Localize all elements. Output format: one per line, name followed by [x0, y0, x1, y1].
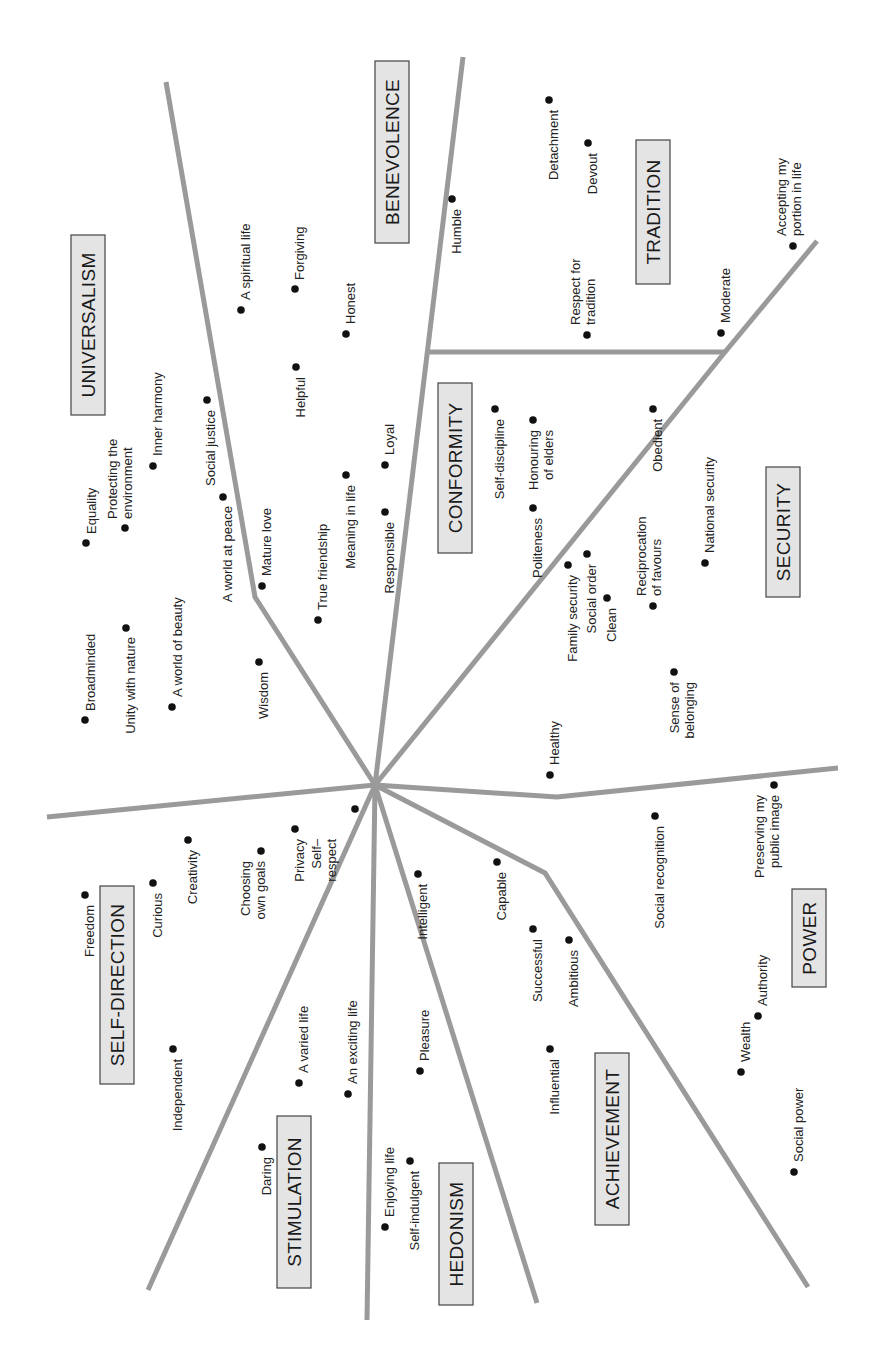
bullet-dot-icon [491, 405, 499, 413]
group-label: SECURITY [773, 483, 794, 581]
value-label: Self-discipline [492, 419, 507, 499]
group-achievement: ACHIEVEMENT [595, 1053, 629, 1225]
value-item-broadminded: Broadminded [81, 634, 98, 724]
value-item-preserving-my-public-image: Preserving mypublic image [752, 781, 782, 878]
value-label: Choosingown goals [238, 861, 268, 920]
bullet-dot-icon [529, 416, 537, 424]
value-item-mature-love: Mature love [258, 508, 274, 590]
value-item-social-order: Social order [583, 550, 599, 633]
value-label: Humble [449, 209, 464, 254]
value-label: Creativity [185, 850, 200, 905]
value-item-respect-for-tradition: Respect fortradition [568, 258, 598, 339]
bullet-dot-icon [295, 1079, 303, 1087]
value-item-influential: Influential [546, 1045, 562, 1114]
value-item-an-exciting-life: An exciting life [344, 1000, 360, 1098]
group-self-direction: SELF-DIRECTION [100, 886, 134, 1084]
bullet-dot-icon [257, 847, 265, 855]
value-item-a-varied-life: A varied life [295, 1006, 311, 1087]
bullet-dot-icon [168, 703, 176, 711]
value-item-creativity: Creativity [184, 836, 200, 904]
value-item-self-indulgent: Self-indulgent [406, 1157, 422, 1250]
value-label: Privacy [292, 839, 307, 882]
value-label: Sense ofbelonging [667, 682, 697, 739]
divider-universalism-self-direction [47, 785, 375, 817]
bullet-dot-icon [790, 1168, 798, 1176]
value-item-responsible: Responsible [381, 508, 397, 593]
value-item-honest: Honest [342, 282, 358, 337]
bullet-dot-icon [529, 504, 537, 512]
value-label: Inner harmony [150, 372, 165, 456]
value-label: Reciprocationof favours [634, 517, 664, 597]
value-item-curious: Curious [149, 879, 165, 938]
bullet-dot-icon [583, 331, 591, 339]
value-label: Unity with nature [123, 637, 138, 734]
bullet-dot-icon [258, 1143, 266, 1151]
value-label: Wisdom [256, 672, 271, 719]
value-item-true-friendship: True friendship [314, 524, 330, 624]
value-label: Curious [150, 893, 165, 938]
group-label: SELF-DIRECTION [107, 904, 128, 1067]
bullet-dot-icon [258, 582, 266, 590]
divider-self-direction-stimulation [148, 785, 375, 1290]
bullet-dot-icon [342, 471, 350, 479]
value-item-loyal: Loyal [381, 424, 397, 469]
value-item-enjoying-life: Enjoying life [381, 1147, 397, 1231]
bullet-dot-icon [754, 1012, 762, 1020]
value-label: Mature love [259, 508, 274, 576]
bullet-dot-icon [737, 1068, 745, 1076]
value-label: Authority [755, 954, 770, 1006]
bullet-dot-icon [203, 396, 211, 404]
bullet-dot-icon [546, 771, 554, 779]
value-item-independent: Independent [169, 1045, 185, 1131]
bullet-dot-icon [169, 1045, 177, 1053]
group-conformity: CONFORMITY [438, 383, 472, 553]
group-power: POWER [792, 889, 826, 987]
value-item-daring: Daring [258, 1143, 274, 1195]
bullet-dot-icon [81, 891, 89, 899]
divider-security-power [375, 768, 838, 797]
value-label: Capable [494, 872, 509, 920]
bullet-dot-icon [546, 1045, 554, 1053]
value-item-politeness: Politeness [529, 504, 545, 578]
value-label: Wealth [738, 1022, 753, 1062]
value-label: Obedient [650, 419, 665, 472]
value-item-family-security: Family security [564, 561, 580, 661]
value-item-wisdom: Wisdom [255, 658, 271, 719]
value-item-social-recognition: Social recognition [651, 812, 667, 928]
value-item-capable: Capable [493, 858, 509, 920]
value-label: Moderate [718, 268, 733, 323]
value-label: Intelligent [415, 884, 430, 940]
bullet-dot-icon [219, 493, 227, 501]
value-label: Protecting theenvironment [105, 439, 135, 519]
value-label: Successful [530, 939, 545, 1002]
bullet-dot-icon [314, 616, 322, 624]
value-circle-diagram: UNIVERSALISMBENEVOLENCETRADITIONCONFORMI… [0, 0, 882, 1370]
value-label: Honest [343, 282, 358, 324]
bullet-dot-icon [122, 624, 130, 632]
value-item-inner-harmony: Inner harmony [149, 372, 165, 470]
value-label: Detachment [546, 110, 561, 180]
group-label: CONFORMITY [445, 403, 466, 534]
bullet-dot-icon [351, 805, 359, 813]
value-item-national-security: National security [701, 456, 717, 566]
value-label: A world of beauty [170, 597, 185, 697]
group-tradition: TRADITION [636, 140, 670, 284]
value-label: Social order [584, 563, 599, 633]
bullet-dot-icon [237, 306, 245, 314]
group-label: HEDONISM [446, 1182, 467, 1287]
value-item-sense-of-belonging: Sense ofbelonging [667, 668, 697, 738]
bullet-dot-icon [565, 936, 573, 944]
value-label: Daring [259, 1157, 274, 1195]
value-label: Family security [565, 575, 580, 662]
group-hedonism: HEDONISM [439, 1163, 473, 1305]
bullet-dot-icon [342, 330, 350, 338]
group-label: TRADITION [643, 159, 664, 264]
bullet-dot-icon [545, 96, 553, 104]
bullet-dot-icon [81, 716, 89, 724]
value-label: Politeness [530, 518, 545, 578]
value-item-freedom: Freedom [81, 891, 97, 957]
value-item-reciprocation-of-favours: Reciprocationof favours [634, 517, 664, 610]
value-items: EqualityProtecting theenvironmentInner h… [81, 96, 806, 1250]
bullet-dot-icon [651, 812, 659, 820]
divider-lines [47, 57, 838, 1320]
